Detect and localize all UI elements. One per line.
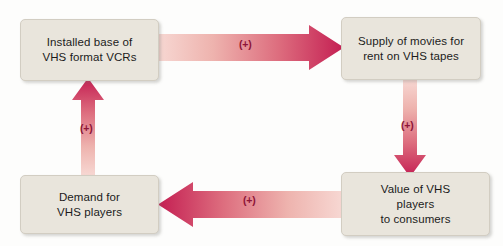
sign-bottom-arrow: (+) (243, 194, 256, 206)
node-supply-of-movies-label: Supply of movies for rent on VHS tapes (354, 34, 468, 64)
causal-loop-diagram: (+) (+) (+) (+) Installed base of VHS fo… (0, 0, 503, 246)
sign-top-arrow: (+) (239, 38, 252, 50)
node-value-of-vhs-players-label: Value of VHS players to consumers (376, 182, 454, 227)
node-supply-of-movies: Supply of movies for rent on VHS tapes (341, 17, 481, 80)
sign-left-arrow: (+) (80, 122, 93, 134)
node-value-of-vhs-players: Value of VHS players to consumers (341, 172, 490, 236)
node-installed-base: Installed base of VHS format VCRs (20, 19, 159, 81)
node-demand-for-vhs-players: Demand for VHS players (20, 175, 159, 234)
node-installed-base-label: Installed base of VHS format VCRs (38, 35, 140, 65)
node-demand-for-vhs-players-label: Demand for VHS players (53, 190, 126, 220)
sign-right-arrow: (+) (401, 119, 414, 131)
